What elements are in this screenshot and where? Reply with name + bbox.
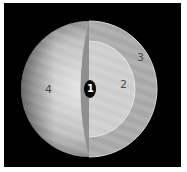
label-4: 4 <box>45 84 52 95</box>
label-1: 1 <box>87 84 94 94</box>
label-3: 3 <box>137 52 144 63</box>
label-2: 2 <box>120 79 127 90</box>
